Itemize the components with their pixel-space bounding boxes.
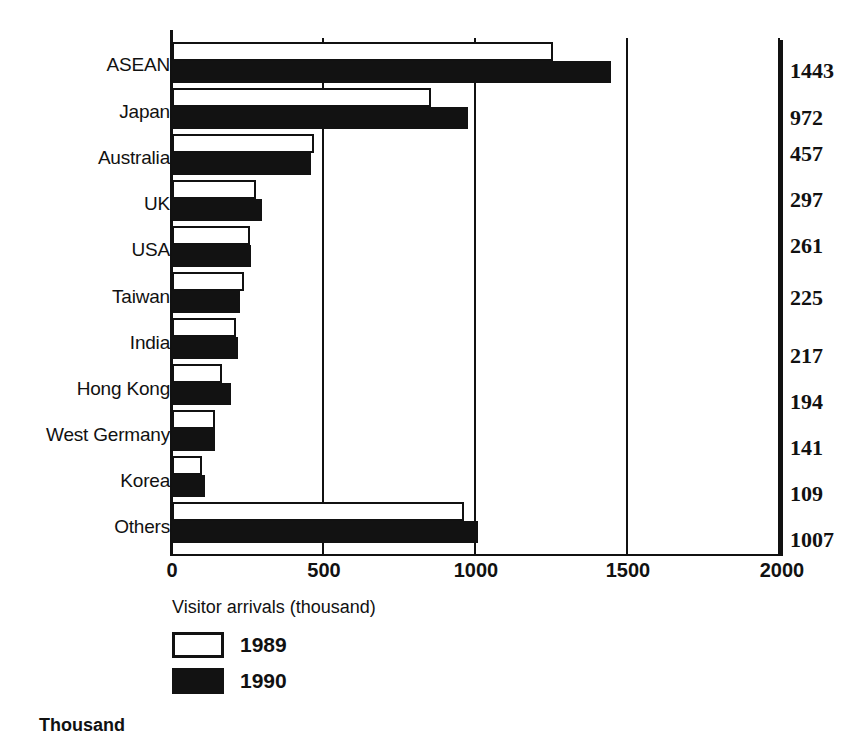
value-label-korea: 109 <box>790 483 823 505</box>
value-label-japan: 972 <box>790 107 823 129</box>
gridline-1000 <box>474 38 476 554</box>
value-label-australia: 457 <box>790 143 823 165</box>
bar-hong-kong-1990 <box>172 383 231 405</box>
bar-others-1989 <box>172 502 464 521</box>
bar-others-1990 <box>172 521 478 543</box>
bar-australia-1989 <box>172 134 314 153</box>
xtick-0: 0 <box>166 560 177 580</box>
bar-chart: ASEAN Japan Australia UK USA Taiwan Indi… <box>0 0 845 745</box>
value-label-india: 217 <box>790 345 823 367</box>
bar-taiwan-1989 <box>172 272 244 291</box>
xtick-2000: 2000 <box>760 560 805 580</box>
bar-usa-1990 <box>172 245 251 267</box>
category-label-india: India <box>130 333 170 352</box>
bar-hong-kong-1989 <box>172 364 222 383</box>
value-label-taiwan: 225 <box>790 287 823 309</box>
category-label-hong-kong: Hong Kong <box>77 379 170 398</box>
bar-india-1989 <box>172 318 236 337</box>
bar-asean-1989 <box>172 42 553 61</box>
category-label-uk: UK <box>144 194 170 213</box>
bar-korea-1990 <box>172 475 205 497</box>
legend-swatch-1989-icon <box>172 632 224 658</box>
plot-area <box>172 38 780 554</box>
footer-note: Thousand <box>39 716 125 734</box>
bar-australia-1990 <box>172 153 311 175</box>
bar-korea-1989 <box>172 456 202 475</box>
bar-asean-1990 <box>172 61 611 83</box>
x-axis-line <box>170 554 780 556</box>
legend-label-1990: 1990 <box>240 670 287 691</box>
category-label-usa: USA <box>132 240 170 259</box>
category-label-australia: Australia <box>98 148 170 167</box>
value-axis-line <box>780 40 783 556</box>
category-label-west-germany: West Germany <box>46 425 170 444</box>
bar-west-germany-1989 <box>172 410 215 429</box>
legend-label-1989: 1989 <box>240 634 287 655</box>
category-label-others: Others <box>114 517 170 536</box>
value-label-usa: 261 <box>790 235 823 257</box>
category-label-asean: ASEAN <box>107 55 170 74</box>
bar-west-germany-1990 <box>172 429 215 451</box>
value-label-hong-kong: 194 <box>790 391 823 413</box>
xtick-500: 500 <box>307 560 340 580</box>
value-label-uk: 297 <box>790 189 823 211</box>
category-label-taiwan: Taiwan <box>112 287 170 306</box>
bar-usa-1989 <box>172 226 250 245</box>
value-label-asean: 1443 <box>790 60 834 82</box>
value-label-others: 1007 <box>790 529 834 551</box>
category-label-korea: Korea <box>120 471 170 490</box>
bar-uk-1990 <box>172 199 262 221</box>
value-label-west-germany: 141 <box>790 437 823 459</box>
bar-india-1990 <box>172 337 238 359</box>
x-axis-title: Visitor arrivals (thousand) <box>172 598 376 616</box>
category-label-japan: Japan <box>119 102 170 121</box>
gridline-1500 <box>626 38 628 554</box>
xtick-1000: 1000 <box>454 560 499 580</box>
bar-taiwan-1990 <box>172 291 240 313</box>
xtick-1500: 1500 <box>606 560 651 580</box>
bar-japan-1990 <box>172 107 468 129</box>
legend-swatch-1990-icon <box>172 668 224 694</box>
bar-japan-1989 <box>172 88 431 107</box>
bar-uk-1989 <box>172 180 256 199</box>
